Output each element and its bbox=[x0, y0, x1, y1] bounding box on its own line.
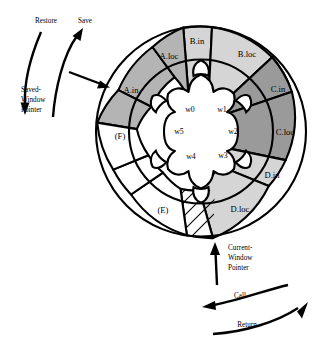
swp-line1: Saved- bbox=[21, 86, 42, 94]
label-c-loc: C.loc bbox=[276, 127, 295, 137]
return-arrow bbox=[213, 302, 308, 334]
label-d-loc: D.loc bbox=[231, 204, 250, 214]
label-f-loc: (F) bbox=[115, 131, 126, 141]
current-window-pointer-arrow bbox=[210, 242, 220, 285]
window-label-w4: w4 bbox=[186, 152, 196, 161]
lens-upper-left bbox=[151, 95, 166, 112]
restore-label: Restore bbox=[35, 17, 57, 25]
save-label: Save bbox=[78, 17, 92, 25]
figure-root: B.in B.loc C.in C.loc D.in D.loc (E) (F)… bbox=[0, 0, 326, 347]
save-arrow bbox=[53, 28, 83, 117]
register-window-diagram: B.in B.loc C.in C.loc D.in D.loc (E) (F)… bbox=[0, 0, 326, 347]
saved-window-pointer-arrow bbox=[69, 72, 110, 89]
lens-lower-left bbox=[151, 151, 166, 168]
window-label-w0: w0 bbox=[185, 105, 195, 114]
return-label: Return bbox=[237, 321, 257, 329]
label-b-loc: B.loc bbox=[238, 49, 257, 59]
label-a-loc: A.loc bbox=[160, 51, 179, 61]
label-b-in: B.in bbox=[190, 36, 205, 46]
cwp-line1: Current- bbox=[228, 244, 253, 252]
window-label-w5: w5 bbox=[174, 127, 184, 136]
label-d-in: D.in bbox=[264, 170, 280, 180]
saved-window-pointer-label: Saved- Window Pointer bbox=[21, 86, 46, 114]
swp-line3: Pointer bbox=[21, 106, 42, 114]
label-a-in: A.in bbox=[123, 85, 139, 95]
call-label: Call bbox=[234, 292, 246, 300]
cwp-line3: Pointer bbox=[228, 264, 249, 272]
cwp-line2: Window bbox=[228, 254, 253, 262]
swp-line2: Window bbox=[21, 96, 46, 104]
label-e-loc: (E) bbox=[158, 205, 169, 215]
window-label-w3: w3 bbox=[218, 151, 228, 160]
current-window-pointer-label: Current- Window Pointer bbox=[228, 244, 253, 272]
window-label-w2: w2 bbox=[228, 127, 238, 136]
window-label-w1: w1 bbox=[217, 105, 227, 114]
label-c-in: C.in bbox=[271, 84, 286, 94]
